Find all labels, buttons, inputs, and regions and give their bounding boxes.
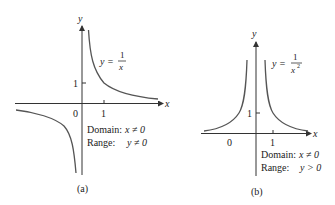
panel-a-x-tick-label-1: 1	[101, 108, 106, 119]
panel-b-eq-num: 1	[293, 52, 298, 62]
panel-b-x-tick-label-0: 0	[227, 137, 232, 148]
panel-b-chart: y x 0 1 1 y = 1 x 2 Domain: x ≠ 0 Range:…	[201, 28, 321, 198]
panel-b-eq-den: x	[290, 65, 295, 75]
panel-a-y-tick-label-1: 1	[73, 78, 78, 89]
panel-a-x-tick-label-0: 0	[73, 108, 78, 119]
panel-b-eq-lhs: y =	[271, 58, 286, 69]
panel-a-range-label: Range:	[87, 137, 115, 148]
panel-a-curve-positive	[89, 30, 159, 99]
panel-a-domain-label: Domain:	[87, 124, 122, 135]
panel-a-range-expr: y ≠ 0	[126, 137, 147, 148]
panel-a-eq-num: 1	[120, 50, 125, 60]
panel-a-eq-den: x	[118, 62, 123, 72]
panel-a-domain-expr: x ≠ 0	[124, 124, 145, 135]
panel-b-y-label: y	[251, 28, 257, 39]
panel-a-y-label: y	[77, 13, 83, 24]
panel-a-caption: (a)	[77, 183, 88, 195]
panel-b-x-tick-label-1: 1	[270, 137, 275, 148]
panel-a-eq-lhs: y =	[99, 56, 114, 67]
panel-b-caption: (b)	[251, 186, 263, 198]
panel-b-curve-positive	[265, 60, 308, 131]
panel-a-x-label: x	[164, 98, 170, 109]
panel-b-domain-label: Domain:	[261, 149, 296, 160]
panel-b-curve-negative	[204, 60, 247, 131]
panel-a-curve-negative	[16, 110, 76, 173]
panel-b-range-expr: y > 0	[299, 162, 321, 173]
panel-b-y-tick-label-1: 1	[247, 108, 252, 119]
panel-b-eq-exp: 2	[297, 63, 300, 69]
figure: y x 0 1 1 y = 1 x Domain: x ≠ 0 Range: y…	[0, 0, 335, 205]
panel-b-x-label: x	[312, 128, 318, 139]
panel-b-range-label: Range:	[261, 162, 289, 173]
panel-b-domain-expr: x ≠ 0	[298, 149, 319, 160]
panel-a-chart: y x 0 1 1 y = 1 x Domain: x ≠ 0 Range: y…	[15, 13, 170, 195]
